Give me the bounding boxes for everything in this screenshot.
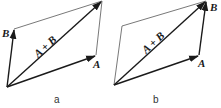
panel-b: B A A + B b: [114, 1, 217, 105]
vector-addition-figure: B A A + B a B A A + B b: [0, 0, 221, 108]
panel-a-caption: a: [54, 94, 60, 105]
vector-sum-label: A + B: [139, 29, 167, 56]
parallelogram-edge-top: [14, 1, 102, 29]
vector-a-arrow: [114, 56, 198, 85]
vector-b-arrow: [199, 2, 206, 55]
vector-b-label: B: [1, 27, 9, 39]
panel-a: B A A + B a: [1, 1, 102, 105]
parallelogram-edge-left: [114, 26, 122, 85]
vector-a-label: A: [197, 57, 205, 69]
vector-a-label: A: [92, 58, 100, 70]
panel-b-caption: b: [153, 94, 159, 105]
vector-sum-label: A + B: [31, 33, 59, 60]
vector-b-label: B: [209, 1, 217, 13]
vector-a-arrow: [7, 56, 95, 87]
parallelogram-edge-right: [96, 1, 102, 55]
